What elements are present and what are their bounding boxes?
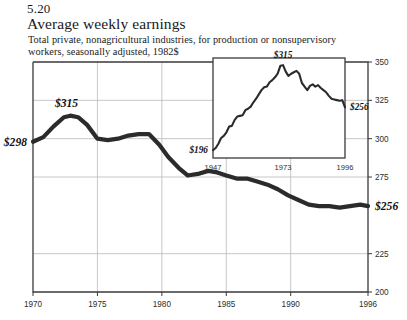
x-tick-label: 1970 xyxy=(24,300,43,309)
x-tick-label: 1975 xyxy=(88,300,107,309)
figure-subtitle: Total private, nonagricultural industrie… xyxy=(28,34,363,59)
inset-x-tick-label: 1973 xyxy=(275,163,292,172)
x-tick-label: 1980 xyxy=(153,300,172,309)
figure-number: 5.20 xyxy=(27,1,51,16)
y-tick-label: 325 xyxy=(375,96,389,105)
inset-chart-group: 194719731996$196$315$256 xyxy=(188,50,369,172)
inset-value-annotation: $256 xyxy=(349,102,369,112)
x-tick-label: 1990 xyxy=(282,300,301,309)
inset-value-annotation: $196 xyxy=(188,145,208,155)
y-tick-label: 350 xyxy=(375,58,389,67)
figure-container: 5.20 Average weekly earnings Total priva… xyxy=(0,0,407,320)
x-tick-label: 1996 xyxy=(359,300,378,309)
inset-x-tick-label: 1996 xyxy=(337,163,354,172)
y-tick-label: 275 xyxy=(375,173,389,182)
value-annotation: $315 xyxy=(54,97,78,110)
value-annotation: $256 xyxy=(374,200,398,213)
y-tick-label: 225 xyxy=(375,250,389,259)
y-tick-label: 300 xyxy=(375,135,389,144)
inset-x-tick-label: 1947 xyxy=(205,163,222,172)
x-tick-label: 1985 xyxy=(217,300,236,309)
y-tick-label: 200 xyxy=(375,288,389,297)
value-annotation: $298 xyxy=(3,136,27,149)
figure-title: Average weekly earnings xyxy=(27,15,186,33)
